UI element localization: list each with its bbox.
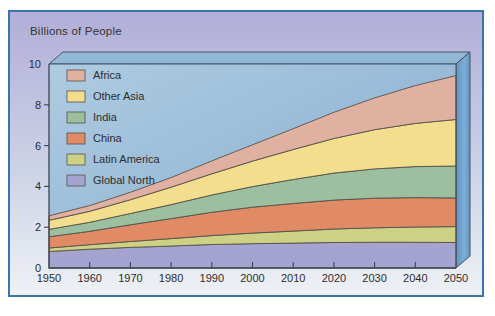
x-tick-label-2030: 2030 [362,272,386,284]
x-tick-label-2050: 2050 [444,272,468,284]
legend-swatch-other-asia [67,91,85,102]
legend-swatch-china [67,133,85,144]
x-tick-label-1970: 1970 [118,272,142,284]
legend-swatch-india [67,112,85,123]
x-tick-label-1960: 1960 [77,272,101,284]
x-tick-label-2020: 2020 [322,272,346,284]
x-tick-label-1990: 1990 [200,272,224,284]
box-top-face [49,52,470,64]
stacked-area-chart: 0246810195019601970198019902000201020202… [10,12,482,295]
y-tick-label-6: 6 [35,140,41,152]
x-tick-label-2000: 2000 [240,272,264,284]
y-tick-label-10: 10 [29,58,41,70]
legend-label-global-north: Global North [93,174,155,186]
x-tick-label-2010: 2010 [281,272,305,284]
legend-label-africa: Africa [93,69,122,81]
legend-swatch-africa [67,70,85,81]
x-tick-label-1980: 1980 [159,272,183,284]
population-chart-figure: Billions of People 024681019501960197019… [8,10,484,297]
x-tick-label-1950: 1950 [37,272,61,284]
y-tick-label-2: 2 [35,221,41,233]
y-tick-label-4: 4 [35,180,41,192]
legend-label-latin-america: Latin America [93,153,161,165]
y-tick-label-8: 8 [35,99,41,111]
legend-swatch-latin-america [67,154,85,165]
figure-canvas: Billions of People 024681019501960197019… [0,0,495,316]
legend-label-china: China [93,132,123,144]
box-side-face [456,52,470,268]
legend-swatch-global-north [67,175,85,186]
legend-label-india: India [93,111,118,123]
legend-label-other-asia: Other Asia [93,90,145,102]
x-tick-label-2040: 2040 [403,272,427,284]
